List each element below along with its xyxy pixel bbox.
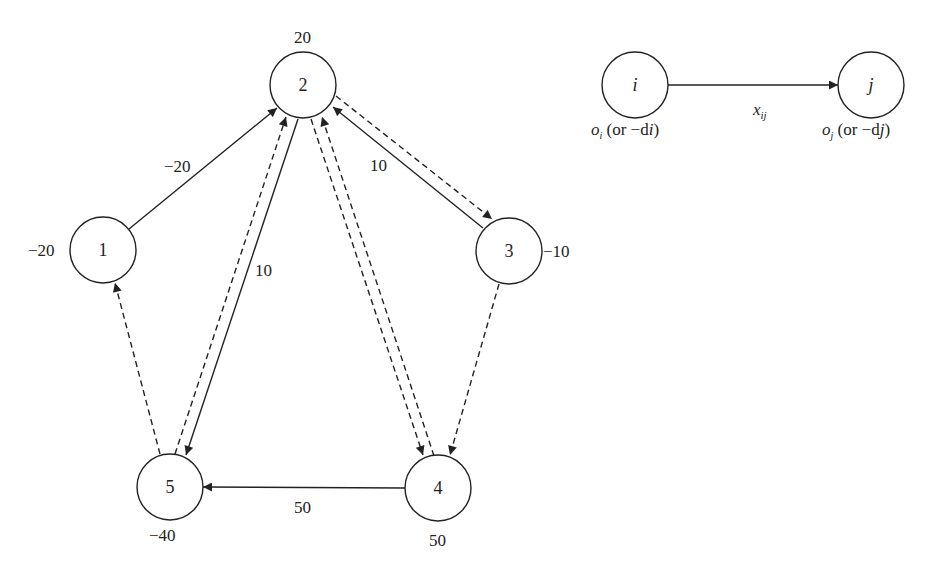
legend-supply-j: oj (or −dj)	[822, 120, 890, 141]
edge-5-2-dashed	[175, 117, 286, 454]
edge-3-4-dashed	[450, 284, 499, 455]
node-3-value: −10	[543, 242, 570, 261]
node-5-label: 5	[166, 477, 175, 497]
nodes	[70, 52, 904, 521]
edge-4-5	[203, 487, 405, 488]
node-labels: 1 2 3 4 5 i j	[99, 75, 874, 498]
legend-supply-i: oi (or −di)	[591, 120, 659, 141]
edge-2-4-dashed	[311, 119, 423, 455]
network-flow-diagram: 1 2 3 4 5 i j −20 20 −10 50 −40 −20 10 1…	[0, 0, 936, 573]
node-5-value: −40	[149, 526, 176, 545]
edge-3-2-label: 10	[370, 156, 387, 175]
edge-1-2-label: −20	[164, 157, 191, 176]
node-2-value: 20	[294, 28, 311, 47]
node-1-value: −20	[28, 241, 55, 260]
node-3-label: 3	[505, 241, 514, 261]
node-4-value: 50	[429, 531, 446, 550]
legend-edge-label: xij	[752, 100, 767, 121]
node-1-label: 1	[99, 240, 108, 260]
edge-5-1-dashed	[115, 283, 160, 454]
node-4-label: 4	[434, 478, 443, 498]
edge-labels: −20 10 10 50	[164, 156, 387, 517]
edges	[115, 85, 838, 488]
edge-4-5-label: 50	[294, 498, 311, 517]
edge-2-3-dashed	[336, 96, 492, 219]
edge-3-2	[333, 107, 483, 228]
legend-node-j-label: j	[866, 75, 873, 95]
legend-node-i-label: i	[632, 75, 637, 95]
edge-2-5-label: 10	[255, 261, 272, 280]
node-2-label: 2	[299, 75, 308, 95]
